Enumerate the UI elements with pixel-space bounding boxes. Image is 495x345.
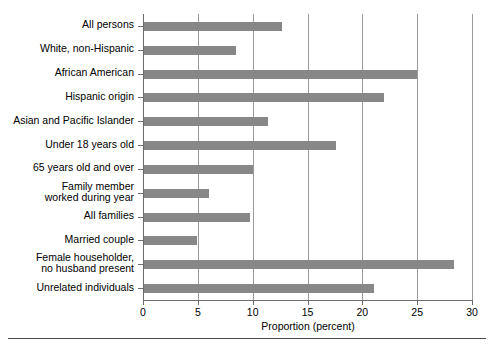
x-tick-label-15: 15 — [293, 306, 323, 318]
x-tick-label-20: 20 — [347, 306, 377, 318]
x-tick-30 — [472, 300, 473, 305]
chart-figure: All personsWhite, non-HispanicAfrican Am… — [0, 0, 495, 345]
category-label: African American — [0, 67, 134, 78]
category-label: Female householder, no husband present — [0, 252, 134, 274]
y-axis-line — [143, 14, 144, 301]
bar — [143, 260, 454, 269]
bar — [143, 284, 374, 293]
x-tick-20 — [362, 300, 363, 305]
category-label: All families — [0, 210, 134, 221]
x-tick-25 — [417, 300, 418, 305]
bar-row: White, non-Hispanic — [143, 38, 472, 62]
bar — [143, 236, 197, 245]
plot-area: All personsWhite, non-HispanicAfrican Am… — [143, 14, 472, 300]
bar — [143, 189, 209, 198]
bar — [143, 70, 417, 79]
category-label: Asian and Pacific Islander — [0, 115, 134, 126]
bar-row: Family member worked during year — [143, 181, 472, 205]
bar — [143, 165, 253, 174]
x-tick-label-5: 5 — [183, 306, 213, 318]
bar-row: African American — [143, 62, 472, 86]
bar-row: All families — [143, 205, 472, 229]
bar-row: Female householder, no husband present — [143, 252, 472, 276]
category-label: White, non-Hispanic — [0, 43, 134, 54]
category-label: Family member worked during year — [0, 181, 134, 203]
x-tick-10 — [253, 300, 254, 305]
bar-row: Hispanic origin — [143, 86, 472, 110]
bar — [143, 46, 236, 55]
x-tick-15 — [308, 300, 309, 305]
bar — [143, 22, 282, 31]
x-tick-label-0: 0 — [128, 306, 158, 318]
category-label: All persons — [0, 19, 134, 30]
bar — [143, 117, 268, 126]
x-tick-5 — [198, 300, 199, 305]
bar-row: Unrelated individuals — [143, 276, 472, 300]
bar-row: Under 18 years old — [143, 133, 472, 157]
bar — [143, 141, 336, 150]
x-tick-label-25: 25 — [402, 306, 432, 318]
bar-row: Asian and Pacific Islander — [143, 109, 472, 133]
x-tick-label-10: 10 — [238, 306, 268, 318]
bar-row: Married couple — [143, 229, 472, 253]
bar — [143, 213, 250, 222]
bottom-rule — [8, 338, 486, 339]
x-axis-label: Proportion (percent) — [143, 320, 473, 332]
gridline-30 — [472, 14, 473, 300]
bar-row: 65 years old and over — [143, 157, 472, 181]
category-label: 65 years old and over — [0, 162, 134, 173]
x-tick-0 — [143, 300, 144, 305]
bar — [143, 93, 384, 102]
x-tick-label-30: 30 — [457, 306, 487, 318]
category-label: Unrelated individuals — [0, 282, 134, 293]
bar-row: All persons — [143, 14, 472, 38]
category-label: Hispanic origin — [0, 91, 134, 102]
category-label: Married couple — [0, 234, 134, 245]
category-label: Under 18 years old — [0, 139, 134, 150]
